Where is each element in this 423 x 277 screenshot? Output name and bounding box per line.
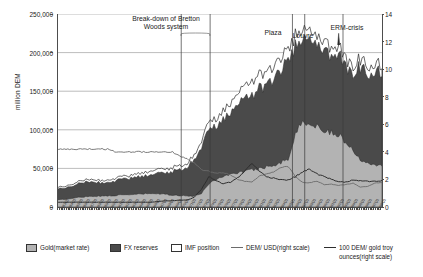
chart-legend: Gold(market rate) FX reserves IMF positi… <box>26 243 401 269</box>
tick-mark <box>50 129 53 130</box>
legend-label-gold: Gold(market rate) <box>40 243 89 252</box>
x-tick-mark <box>283 207 284 210</box>
x-tick-mark <box>191 207 192 210</box>
y-axis-left: 250,000200,000150,000100,00050,0000 <box>9 0 53 277</box>
axis-line-right <box>382 14 383 208</box>
x-tick-mark <box>212 207 213 210</box>
x-tick-mark <box>156 207 157 210</box>
yaxis-left-tick: 0 <box>17 204 53 211</box>
legend-label-imf-position: IMF position <box>185 243 219 252</box>
legend-label-fx-reserves: FX reserves <box>124 243 158 252</box>
yaxis-left-tick: 100,000 <box>17 126 53 133</box>
x-tick-mark <box>262 207 263 210</box>
x-tick-mark <box>170 207 171 210</box>
x-tick-mark <box>304 207 305 210</box>
x-tick-mark <box>290 207 291 210</box>
x-tick-mark <box>241 207 242 210</box>
x-tick-mark <box>340 207 341 210</box>
x-tick-mark <box>57 207 58 210</box>
x-tick-mark <box>163 207 164 210</box>
x-tick-mark <box>255 207 256 210</box>
legend-item-gold-troy: 100 DEM/ gold troy ounces(right scale) <box>324 243 393 261</box>
annotation-erm-crisis: ERM-crisis <box>320 24 374 32</box>
yaxis-right-tick: 12 <box>385 38 405 45</box>
legend-label-dem-usd: DEM/ USD(right scale) <box>246 243 310 252</box>
x-tick-mark <box>121 207 122 210</box>
legend-item-imf-position: IMF position <box>171 243 219 252</box>
yaxis-left-tick: 50,000 <box>17 165 53 172</box>
x-tick-mark <box>71 207 72 210</box>
x-tick-mark <box>99 207 100 210</box>
legend-swatch-gold-icon <box>26 244 37 252</box>
yaxis-right-tick: 0 <box>385 204 405 211</box>
x-tick-mark <box>333 207 334 210</box>
chart-container: million DEM 250,000200,000150,000100,000… <box>0 0 423 277</box>
legend-item-gold: Gold(market rate) <box>26 243 89 252</box>
x-tick-mark <box>347 207 348 210</box>
x-tick-mark <box>149 207 150 210</box>
tick-mark <box>50 91 53 92</box>
plot-svg <box>57 14 382 207</box>
x-tick-mark <box>269 207 270 210</box>
annotation-bretton-line1: Break-down of Bretton <box>132 15 200 22</box>
legend-swatch-fx-icon <box>110 244 121 252</box>
y-axis-right: 14121086420 <box>385 0 409 277</box>
annotation-bretton-line2: Woods system <box>144 23 188 30</box>
x-tick-mark <box>248 207 249 210</box>
legend-line-gold-troy-icon <box>324 247 336 248</box>
legend-line-dem-usd-icon <box>231 247 243 248</box>
x-tick-mark <box>184 207 185 210</box>
annotation-plaza: Plaza <box>256 29 290 37</box>
x-tick-mark <box>325 207 326 210</box>
x-tick-mark <box>92 207 93 210</box>
yaxis-right-tick: 4 <box>385 148 405 155</box>
yaxis-right-tick: 6 <box>385 121 405 128</box>
tick-mark <box>50 14 53 15</box>
legend-label-gold-troy-line1: 100 DEM/ gold troy <box>339 244 393 251</box>
yaxis-right-tick: 10 <box>385 66 405 73</box>
tick-mark <box>50 207 53 208</box>
x-tick-mark <box>276 207 277 210</box>
yaxis-right-tick: 8 <box>385 93 405 100</box>
x-tick-mark <box>78 207 79 210</box>
x-tick-mark <box>234 207 235 210</box>
plot-area <box>57 14 382 207</box>
legend-item-dem-usd: DEM/ USD(right scale) <box>231 243 310 252</box>
yaxis-right-tick: 2 <box>385 176 405 183</box>
annotation-bretton-woods: Break-down of Bretton Woods system <box>101 15 231 32</box>
yaxis-left-tick: 150,000 <box>17 88 53 95</box>
x-tick-mark <box>135 207 136 210</box>
x-tick-mark <box>368 207 369 210</box>
x-tick-mark <box>227 207 228 210</box>
x-tick-mark <box>106 207 107 210</box>
x-tick-mark <box>142 207 143 210</box>
x-tick-mark <box>85 207 86 210</box>
x-tick-mark <box>361 207 362 210</box>
yaxis-left-tick: 200,000 <box>17 49 53 56</box>
x-tick-mark <box>375 207 376 210</box>
annotation-louvre: Louvre <box>286 32 320 40</box>
yaxis-right-tick: 14 <box>385 11 405 18</box>
x-tick-mark <box>205 207 206 210</box>
x-tick-mark <box>311 207 312 210</box>
x-tick-mark <box>114 207 115 210</box>
axis-line-left <box>57 14 58 208</box>
legend-swatch-imf-icon <box>171 244 182 252</box>
x-tick-mark <box>318 207 319 210</box>
tick-mark <box>50 52 53 53</box>
erm-crisis-spike <box>338 33 340 45</box>
annotation-brace <box>180 31 211 37</box>
x-tick-mark <box>128 207 129 210</box>
x-tick-mark <box>64 207 65 210</box>
x-tick-mark <box>354 207 355 210</box>
x-axis-ticks: 1953Q11954Q11955Q11956Q11957Q11958Q11959… <box>57 209 383 239</box>
x-tick-mark <box>177 207 178 210</box>
x-tick-mark <box>198 207 199 210</box>
x-tick-mark <box>220 207 221 210</box>
legend-item-fx-reserves: FX reserves <box>110 243 158 252</box>
yaxis-left-tick: 250,000 <box>17 11 53 18</box>
x-tick-mark <box>297 207 298 210</box>
tick-mark <box>50 168 53 169</box>
legend-label-gold-troy-line2: ounces(right scale) <box>339 253 392 260</box>
